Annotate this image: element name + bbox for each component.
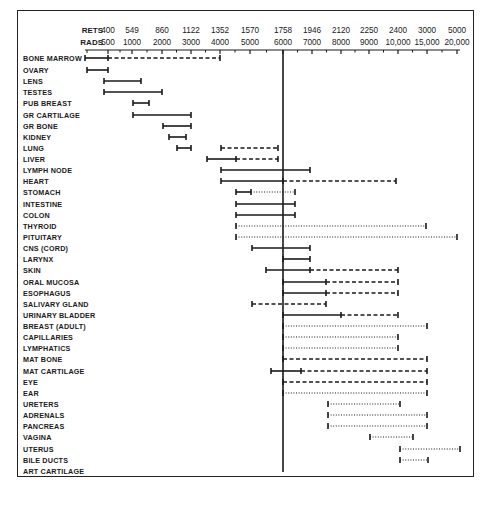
organ-label: KIDNEY — [23, 133, 51, 142]
tick-label: 5000 — [241, 38, 260, 47]
range-row — [266, 267, 398, 273]
range-row — [400, 457, 428, 463]
range-row — [133, 100, 149, 106]
organ-label: SALIVARY GLAND — [23, 300, 89, 309]
organ-label: CAPILLARIES — [23, 333, 73, 342]
range-row — [283, 256, 310, 262]
tick-label: 7000 — [303, 38, 322, 47]
tick-label: 1570 — [241, 26, 260, 35]
range-row — [87, 67, 108, 73]
organ-label: UTERUS — [23, 445, 54, 454]
organ-label: EYE — [23, 378, 38, 387]
range-row — [133, 112, 191, 118]
range-row — [370, 434, 413, 440]
organ-label: LARYNX — [23, 255, 53, 264]
tick-label: 3000 — [418, 26, 437, 35]
tick-label: 5000 — [448, 26, 467, 35]
range-row — [283, 356, 427, 362]
organ-label: LENS — [23, 77, 43, 86]
organ-label: MAT BONE — [23, 355, 62, 364]
organ-label: INTESTINE — [23, 200, 62, 209]
range-row — [283, 379, 427, 385]
tolerance-ranges — [85, 55, 460, 463]
organ-label: THYROID — [23, 222, 57, 231]
organ-label: STOMACH — [23, 188, 61, 197]
tick-label: 9000 — [360, 38, 379, 47]
tick-label: 1946 — [303, 26, 322, 35]
tick-label: 8000 — [332, 38, 351, 47]
organ-label: ART CARTILAGE — [23, 467, 84, 476]
tick-label: 1352 — [211, 26, 230, 35]
range-row — [283, 290, 398, 296]
range-row — [236, 223, 426, 229]
tick-label: 15,000 — [414, 38, 439, 47]
organ-label: ESOPHAGUS — [23, 289, 71, 298]
axis-row-name-rads: RADS — [80, 38, 103, 47]
organ-label: GR CARTILAGE — [23, 111, 80, 120]
x-axis — [85, 50, 460, 54]
organ-label: BREAST (ADULT) — [23, 322, 86, 331]
range-row — [236, 189, 295, 195]
range-row — [283, 312, 398, 318]
tick-label: 3000 — [182, 38, 201, 47]
organ-label: GR BONE — [23, 122, 58, 131]
organ-labels: BONE MARROWOVARYLENSTESTESPUB BREASTGR C… — [23, 54, 96, 476]
range-row — [328, 412, 427, 418]
organ-label: HEART — [23, 177, 49, 186]
range-row — [163, 123, 191, 129]
range-row — [221, 178, 396, 184]
range-row — [236, 234, 457, 240]
range-row — [328, 401, 400, 407]
tick-label: 500 — [101, 38, 115, 47]
range-row — [104, 78, 141, 84]
organ-label: COLON — [23, 211, 50, 220]
range-row — [283, 390, 427, 396]
organ-label: OVARY — [23, 66, 49, 75]
tick-label: 2000 — [153, 38, 172, 47]
organ-label: LYMPH NODE — [23, 166, 72, 175]
range-row — [283, 345, 398, 351]
organ-label: PANCREAS — [23, 422, 64, 431]
range-row — [221, 167, 310, 173]
tick-label: 1000 — [123, 38, 142, 47]
range-row — [252, 245, 310, 251]
range-row — [104, 89, 162, 95]
range-row — [283, 334, 398, 340]
tick-label: 2250 — [360, 26, 379, 35]
range-row — [400, 446, 460, 452]
organ-label: BONE MARROW — [23, 54, 82, 63]
organ-label: LIVER — [23, 155, 46, 164]
organ-label: ORAL MUCOSA — [23, 278, 79, 287]
tick-label: 400 — [101, 26, 115, 35]
tick-label: 10,000 — [385, 38, 410, 47]
x-axis-labels: RETS400549860112213521570175819462120225… — [80, 26, 470, 47]
range-row — [85, 55, 220, 61]
range-row — [283, 279, 398, 285]
organ-label: ADRENALS — [23, 411, 65, 420]
tick-label: 1758 — [274, 26, 293, 35]
tick-label: 2120 — [332, 26, 351, 35]
organ-label: PUB BREAST — [23, 99, 72, 108]
tick-label: 6000 — [274, 38, 293, 47]
range-row — [252, 301, 326, 307]
range-row — [169, 134, 186, 140]
range-row — [236, 201, 295, 207]
range-row — [283, 323, 427, 329]
organ-label: SKIN — [23, 266, 41, 275]
organ-label: MAT CARTILAGE — [23, 367, 85, 376]
tick-label: 549 — [125, 26, 139, 35]
organ-label: TESTES — [23, 88, 52, 97]
range-row — [177, 145, 278, 151]
organ-label: EAR — [23, 389, 39, 398]
organ-label: BILE DUCTS — [23, 456, 68, 465]
range-row — [236, 212, 295, 218]
tick-label: 1122 — [182, 26, 200, 35]
radiation-tolerance-chart: RETS400549860112213521570175819462120225… — [0, 0, 488, 507]
organ-label: PITUITARY — [23, 233, 62, 242]
range-row — [328, 423, 427, 429]
organ-label: LYMPHATICS — [23, 344, 71, 353]
organ-label: URINARY BLADDER — [23, 311, 96, 320]
range-row — [207, 156, 278, 162]
organ-label: LUNG — [23, 144, 44, 153]
organ-label: CNS (CORD) — [23, 244, 69, 253]
